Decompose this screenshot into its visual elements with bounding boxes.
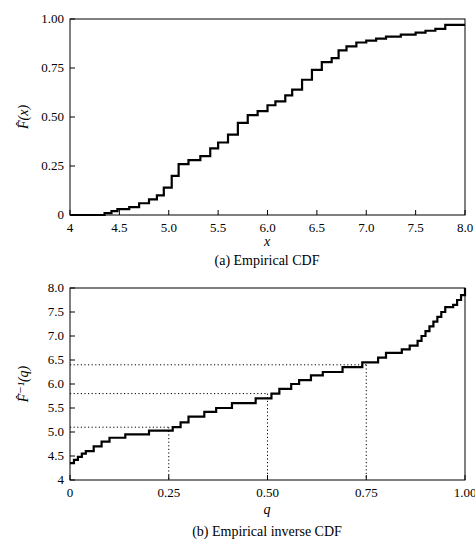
x-tick-label: 6.5 (309, 220, 325, 235)
x-axis-label: x (263, 234, 271, 249)
plot-frame (70, 19, 465, 215)
quantile-guide-lines (70, 365, 366, 480)
x-axis-label: q (264, 502, 271, 517)
cdf-step-line (70, 25, 465, 215)
x-tick-label: 0.50 (256, 485, 279, 500)
x-tick-label: 6.0 (259, 220, 275, 235)
x-tick-label: 5.5 (210, 220, 226, 235)
y-tick-label: 4.5 (48, 448, 64, 463)
y-tick-label: 7.5 (48, 304, 64, 319)
y-axis-label: F̂⁻¹(q) (16, 365, 32, 403)
x-tick-label: 7.0 (358, 220, 374, 235)
x-tick-label: 0.25 (157, 485, 180, 500)
y-tick-label: 5.0 (48, 424, 64, 439)
y-tick-label: 0.50 (41, 109, 64, 124)
y-tick-label: 5.5 (48, 400, 64, 415)
y-tick-label: 0.25 (41, 158, 64, 173)
y-tick-label: 7.0 (48, 328, 64, 343)
y-tick-label: 0 (58, 207, 65, 222)
x-tick-label: 5.0 (161, 220, 177, 235)
x-axis-ticks: 00.250.500.751.00 (67, 475, 475, 500)
y-tick-label: 0.75 (41, 60, 64, 75)
y-tick-label: 6.5 (48, 352, 64, 367)
x-tick-label: 4.5 (111, 220, 127, 235)
x-tick-label: 1.00 (454, 485, 475, 500)
x-tick-label: 4 (67, 220, 74, 235)
y-tick-label: 4 (58, 472, 65, 487)
caption-a: (a) Empirical CDF (215, 253, 320, 269)
y-tick-label: 6.0 (48, 376, 64, 391)
x-axis-ticks: 44.55.05.56.06.57.07.58.0 (67, 210, 473, 235)
x-tick-label: 0 (67, 485, 74, 500)
empirical-inverse-cdf-chart: 44.55.05.56.06.57.07.58.0 00.250.500.751… (16, 280, 475, 540)
empirical-cdf-chart: 00.250.500.751.00 44.55.05.56.06.57.07.5… (16, 11, 473, 269)
x-tick-label: 0.75 (355, 485, 378, 500)
y-tick-label: 8.0 (48, 280, 64, 295)
figure-canvas: 00.250.500.751.00 44.55.05.56.06.57.07.5… (0, 0, 475, 553)
x-tick-label: 7.5 (408, 220, 424, 235)
x-tick-label: 8.0 (457, 220, 473, 235)
caption-b: (b) Empirical inverse CDF (192, 524, 342, 540)
y-axis-label: F̂(x) (16, 105, 32, 130)
y-tick-label: 1.00 (41, 11, 64, 26)
y-axis-ticks: 44.55.05.56.06.57.07.58.0 (48, 280, 75, 487)
